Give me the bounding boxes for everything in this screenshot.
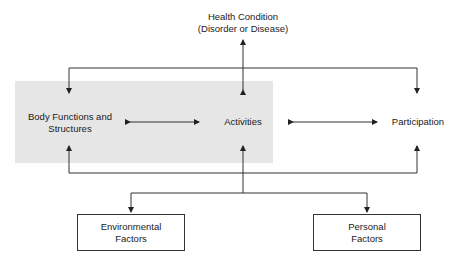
- environmental-factors-node: Environmental Factors: [77, 214, 185, 251]
- environmental-factors-line2: Factors: [101, 233, 162, 245]
- health-condition-line2: (Disorder or Disease): [193, 23, 293, 35]
- personal-factors-line1: Personal: [348, 221, 386, 233]
- body-functions-line1: Body Functions and: [16, 111, 124, 123]
- body-functions-node: Body Functions and Structures: [16, 111, 124, 135]
- environmental-factors-line1: Environmental: [101, 221, 162, 233]
- participation-node: Participation: [386, 116, 450, 128]
- activities-node: Activities: [213, 116, 273, 128]
- personal-factors-node: Personal Factors: [313, 214, 421, 251]
- health-condition-node: Health Condition (Disorder or Disease): [193, 11, 293, 35]
- health-condition-line1: Health Condition: [193, 11, 293, 23]
- personal-factors-line2: Factors: [348, 233, 386, 245]
- body-functions-line2: Structures: [16, 123, 124, 135]
